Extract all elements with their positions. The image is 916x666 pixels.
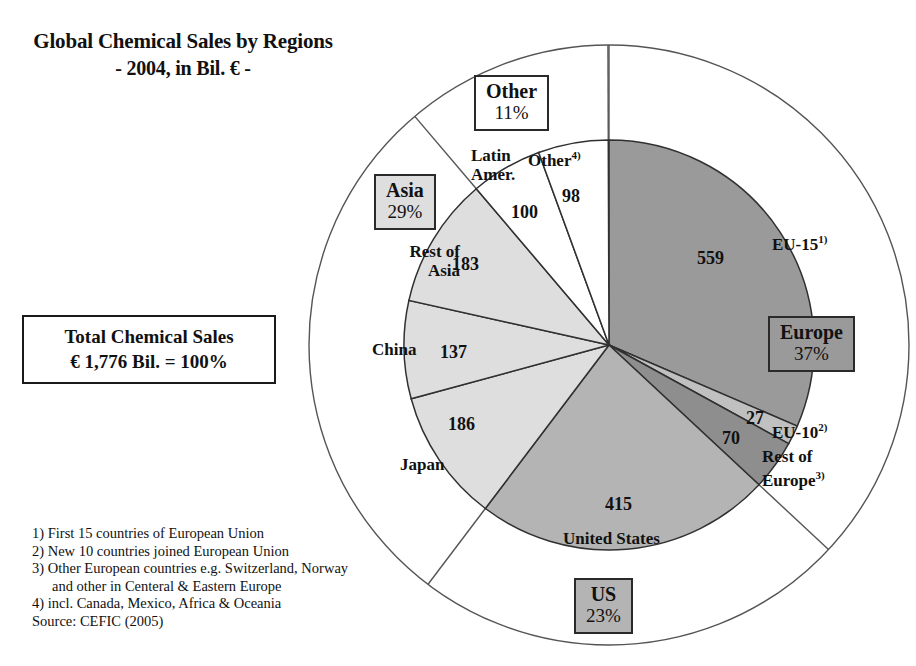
label-rest-of-europe: Rest of Europe3) [762, 447, 825, 490]
value-japan: 186 [448, 414, 475, 435]
label-eu15-sup: 1) [818, 233, 827, 245]
label-rest-of-europe-line2: Europe [762, 471, 816, 490]
group-box-europe: Europe 37% [768, 316, 855, 372]
label-rest-of-asia: Rest of Asia [378, 242, 460, 280]
group-europe-percent: 37% [780, 343, 843, 365]
label-latin-america-line1: Latin [471, 146, 515, 165]
value-latin-america: 100 [511, 202, 538, 223]
chart-canvas: Global Chemical Sales by Regions - 2004,… [0, 0, 916, 666]
ring-divider [759, 485, 829, 550]
label-other-slice-text: Other [528, 151, 571, 170]
label-other-slice-sup: 4) [571, 149, 580, 161]
ring-divider [428, 509, 485, 585]
label-rest-of-asia-line1: Rest of [378, 242, 460, 261]
value-eu15: 559 [697, 248, 724, 269]
value-eu10: 27 [746, 408, 764, 429]
value-rest-of-europe: 70 [722, 428, 740, 449]
label-eu10-sup: 2) [818, 421, 827, 433]
group-asia-percent: 29% [386, 201, 424, 223]
label-eu15-text: EU-15 [772, 235, 818, 254]
label-rest-of-europe-line2-wrap: Europe3) [762, 466, 825, 490]
label-eu10: EU-102) [772, 418, 827, 442]
group-asia-name: Asia [386, 179, 424, 201]
value-rest-of-asia: 183 [452, 254, 479, 275]
label-other-slice: Other4) [528, 146, 581, 170]
label-rest-of-europe-sup: 3) [816, 469, 825, 481]
group-box-asia: Asia 29% [374, 174, 436, 230]
group-europe-name: Europe [780, 321, 843, 343]
group-box-other: Other 11% [474, 75, 549, 131]
group-other-name: Other [486, 80, 537, 102]
label-latin-america-line2: Amer. [471, 165, 515, 184]
label-rest-of-europe-line1: Rest of [762, 447, 825, 466]
group-us-percent: 23% [586, 605, 621, 627]
label-china: China [372, 340, 416, 359]
label-latin-america: Latin Amer. [471, 146, 515, 184]
group-other-percent: 11% [486, 102, 537, 124]
group-us-name: US [586, 583, 621, 605]
label-japan: Japan [400, 455, 444, 474]
value-china: 137 [440, 342, 467, 363]
label-eu10-text: EU-10 [772, 423, 818, 442]
label-united-states: United States [563, 529, 660, 548]
value-united-states: 415 [605, 494, 632, 515]
group-box-us: US 23% [574, 578, 633, 634]
label-eu15: EU-151) [772, 230, 827, 254]
value-other-slice: 98 [562, 186, 580, 207]
label-rest-of-asia-line2: Asia [378, 261, 460, 280]
